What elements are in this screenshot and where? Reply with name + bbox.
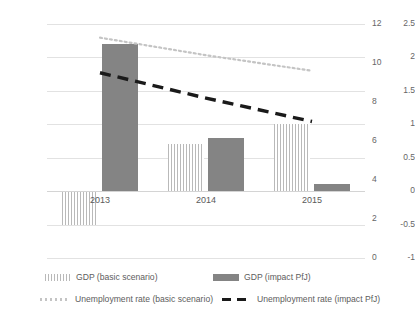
solid-swatch-icon [213,274,239,281]
right-axis-tick: 6 [372,135,412,145]
legend-label-gdp-impact: GDP (impact PfJ) [244,272,311,282]
dashed-line-swatch-icon [222,298,252,301]
bar [168,144,204,191]
left-axis-tick: 1 [377,118,415,128]
left-axis-tick: 1.5 [377,85,415,95]
bar [102,44,138,191]
right-axis-tick: 10 [372,57,412,67]
chart-container: 2.521.510.50-0.5-1 121086420 20132014201… [0,0,415,317]
bar [314,184,350,191]
category-label: 2013 [70,195,130,205]
legend-label-unemp-basic: Unemployment rate (basic scenario) [75,294,213,304]
right-axis-tick: 0 [372,252,412,262]
right-axis-tick: 12 [372,18,412,28]
bar [208,138,244,191]
right-axis-tick: 4 [372,174,412,184]
hatch-swatch-icon [45,274,71,281]
legend-item-unemp-basic[interactable]: Unemployment rate (basic scenario) [40,294,213,304]
right-axis-tick: 8 [372,96,412,106]
category-label: 2014 [176,195,236,205]
legend-item-gdp-impact[interactable]: GDP (impact PfJ) [213,272,311,282]
plot-area [47,24,365,258]
legend-item-unemp-impact[interactable]: Unemployment rate (impact PfJ) [222,294,380,304]
legend-item-gdp-basic[interactable]: GDP (basic scenario) [45,272,158,282]
right-axis-tick: 2 [372,213,412,223]
legend-label-gdp-basic: GDP (basic scenario) [76,272,158,282]
dotted-line-swatch-icon [40,298,70,301]
left-axis-tick: 0.5 [377,152,415,162]
category-label: 2015 [282,195,342,205]
zero-axis-line [47,191,365,192]
left-axis-tick: 0 [377,185,415,195]
legend-label-unemp-impact: Unemployment rate (impact PfJ) [257,294,380,304]
bar [274,124,310,191]
gridline [47,258,365,259]
